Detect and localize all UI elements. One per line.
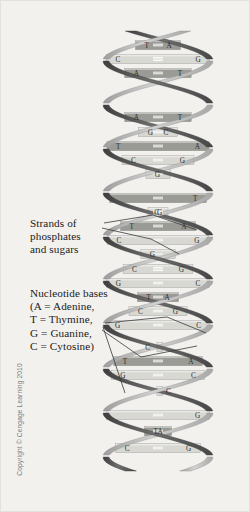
base-letter-C: C <box>132 266 137 274</box>
base-letter-T: T <box>193 195 198 203</box>
base-letter-G: G <box>180 157 185 165</box>
base-letter-C: C <box>116 237 121 245</box>
base-letter-G: G <box>120 372 125 380</box>
dna-figure: TACGATATGCTACGGTGCTACGGCGGCTACGGCCTAGCCG… <box>0 0 250 512</box>
base-letter-C: C <box>115 56 120 64</box>
base-letter-A: A <box>164 294 170 302</box>
base-letter-A: A <box>188 358 194 366</box>
base-letter-G: G <box>150 251 155 259</box>
base-letter-A: A <box>166 42 172 50</box>
base-letter-G: G <box>155 171 160 179</box>
base-letter-T: T <box>178 114 183 122</box>
callout-strands-of-phosphates-and-sugars: Strands of phosphates and sugars <box>30 217 81 257</box>
base-letter-G: G <box>194 237 199 245</box>
base-letter-T: T <box>116 143 121 151</box>
base-letter-C: C <box>145 344 150 352</box>
base-letter-T: T <box>144 42 149 50</box>
base-letter-C: C <box>125 445 130 453</box>
base-letter-T: T <box>123 358 128 366</box>
base-letter-C: C <box>196 322 201 330</box>
base-letter-C: C <box>191 372 196 380</box>
base-letter-G: G <box>115 322 120 330</box>
base-letter-T: T <box>129 223 134 231</box>
base-letter-T: T <box>178 70 183 78</box>
base-letter-G: G <box>186 445 191 453</box>
backbone-segment-b-1 <box>103 61 213 103</box>
backbone-segment-b-2 <box>103 105 213 147</box>
base-letter-C: C <box>166 388 171 396</box>
base-letter-C: C <box>163 129 168 137</box>
base-letter-G: G <box>179 266 184 274</box>
base-letter-T: T <box>146 294 151 302</box>
base-letter-C: C <box>138 308 143 316</box>
base-letter-G: G <box>173 308 178 316</box>
callout-nucleotide-bases: Nucleotide bases (A = Adenine, T = Thymi… <box>30 287 108 353</box>
base-letter-G: G <box>195 412 200 420</box>
base-letter-C: C <box>131 157 136 165</box>
backbone-segment-a-10 <box>103 457 136 471</box>
base-letter-A: A <box>195 143 201 151</box>
base-letter-C: C <box>196 280 201 288</box>
base-letter-A: A <box>157 428 163 436</box>
copyright-notice: Copyright © Cengage Learning 2010 <box>16 358 23 482</box>
base-letter-A: A <box>134 114 140 122</box>
base-letter-G: G <box>116 280 121 288</box>
base-letter-G: G <box>195 56 200 64</box>
backbone-segment-b-10 <box>180 457 213 471</box>
base-letter-G: G <box>148 129 153 137</box>
base-letter-A: A <box>134 70 140 78</box>
